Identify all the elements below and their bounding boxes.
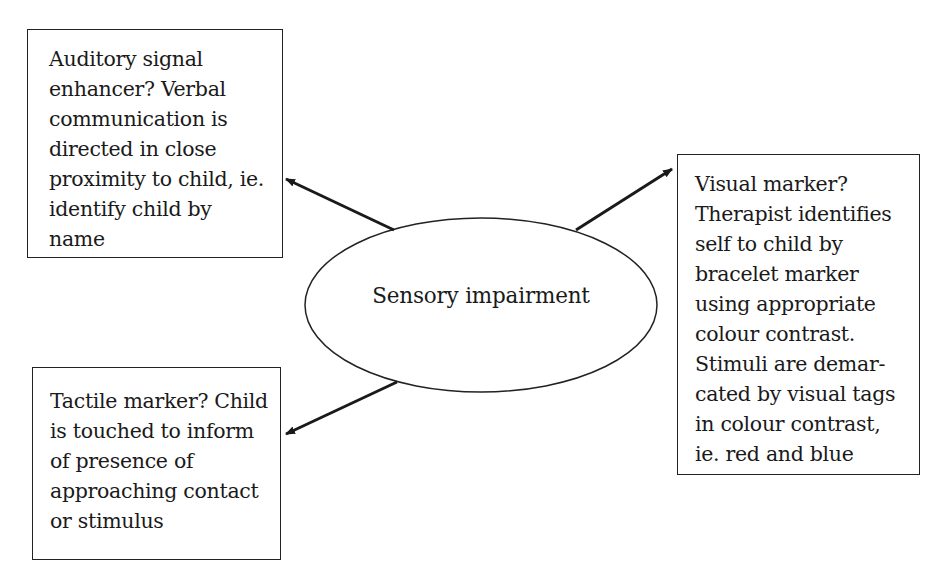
node-line: approaching contact: [50, 476, 274, 506]
arrow-to-tactile: [286, 382, 397, 434]
node-line: Auditory signal: [49, 44, 272, 74]
center-label: Sensory impairment: [305, 283, 657, 308]
tactile-node-box: Tactile marker? Child is touched to info…: [32, 367, 281, 560]
node-line: of presence of: [50, 446, 274, 476]
arrow-to-auditory: [286, 179, 394, 230]
node-line: or stimulus: [50, 506, 274, 536]
node-line: identify child by: [49, 194, 272, 224]
auditory-node-box: Auditory signal enhancer? Verbal communi…: [27, 29, 283, 258]
node-line: Therapist identifies: [695, 199, 911, 229]
node-line: using appropriate: [695, 289, 911, 319]
node-line: directed in close: [49, 134, 272, 164]
node-line: proximity to child, ie.: [49, 164, 272, 194]
node-line: in colour contrast,: [695, 409, 911, 439]
node-line: is touched to inform: [50, 416, 274, 446]
node-line: ie. red and blue: [695, 439, 911, 469]
node-line: bracelet marker: [695, 259, 911, 289]
node-line: Tactile marker? Child: [50, 386, 274, 416]
node-line: communication is: [49, 104, 272, 134]
arrow-to-visual: [576, 169, 672, 230]
node-line: self to child by: [695, 229, 911, 259]
visual-node-box: Visual marker? Therapist identifies self…: [677, 154, 920, 475]
node-line: Stimuli are demar-: [695, 349, 911, 379]
node-line: enhancer? Verbal: [49, 74, 272, 104]
node-line: Visual marker?: [695, 169, 911, 199]
node-line: cated by visual tags: [695, 379, 911, 409]
node-line: name: [49, 224, 272, 254]
node-line: colour contrast.: [695, 319, 911, 349]
